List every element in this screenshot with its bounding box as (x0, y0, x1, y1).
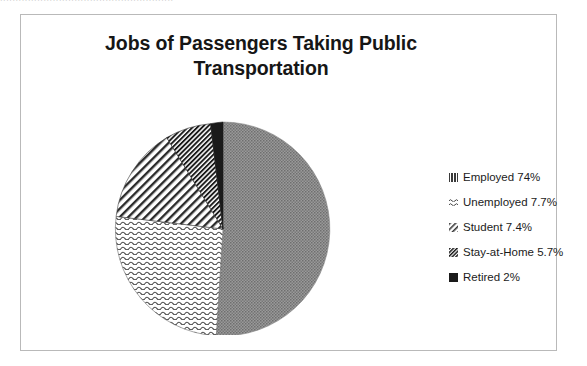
chart-title: Jobs of Passengers Taking Public Transpo… (71, 31, 451, 81)
legend-label-stay-at-home: Stay-at-Home 5.7% (463, 246, 563, 259)
swatch-diagonal-dense-icon (449, 248, 458, 257)
pie-chart-svg (113, 95, 337, 335)
swatch-wavy-lines-icon (449, 198, 458, 207)
pie-chart-plot-area (113, 95, 337, 335)
chart-legend: Employed 74% Unemployed 7.7% Student 7.4… (449, 165, 587, 290)
chart-title-line-2: Transportation (71, 56, 451, 81)
legend-label-employed: Employed 74% (463, 171, 540, 184)
legend-item-student: Student 7.4% (449, 215, 587, 240)
chart-frame: Jobs of Passengers Taking Public Transpo… (20, 14, 557, 351)
legend-label-retired: Retired 2% (463, 271, 520, 284)
pie-slice-employed (216, 122, 330, 335)
legend-item-unemployed: Unemployed 7.7% (449, 190, 587, 215)
pie-slice-unemployed (115, 216, 223, 335)
legend-item-employed: Employed 74% (449, 165, 587, 190)
legend-label-student: Student 7.4% (463, 221, 532, 234)
legend-label-unemployed: Unemployed 7.7% (463, 196, 557, 209)
swatch-dotted-checker-icon (449, 173, 458, 182)
swatch-solid-dark-icon (449, 273, 458, 282)
chart-title-line-1: Jobs of Passengers Taking Public (71, 31, 451, 56)
swatch-diagonal-wide-icon (449, 223, 458, 232)
clipped-text-remnant: ........................................… (0, 0, 587, 7)
legend-item-retired: Retired 2% (449, 265, 587, 290)
legend-item-stay-at-home: Stay-at-Home 5.7% (449, 240, 587, 265)
